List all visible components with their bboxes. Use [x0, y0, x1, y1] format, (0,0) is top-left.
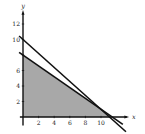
y-axis-arrow-icon: [22, 10, 25, 15]
y-tick-label: 2: [16, 98, 20, 105]
x-tick-label: 10: [97, 119, 105, 126]
x-tick-label: 6: [68, 119, 72, 126]
x-axis-label: x: [132, 113, 136, 121]
x-tick-label: 8: [83, 119, 87, 126]
y-axis-label: y: [20, 2, 25, 10]
feasible-region-graph: 2468102461012yx: [0, 0, 145, 134]
x-tick-label: 2: [37, 119, 41, 126]
y-tick-label: 10: [12, 36, 20, 43]
x-tick-label: 4: [52, 119, 56, 126]
y-tick-label: 4: [16, 82, 20, 89]
y-tick-label: 6: [16, 67, 20, 74]
y-tick-label: 12: [12, 20, 20, 27]
x-axis-arrow-icon: [124, 116, 129, 119]
